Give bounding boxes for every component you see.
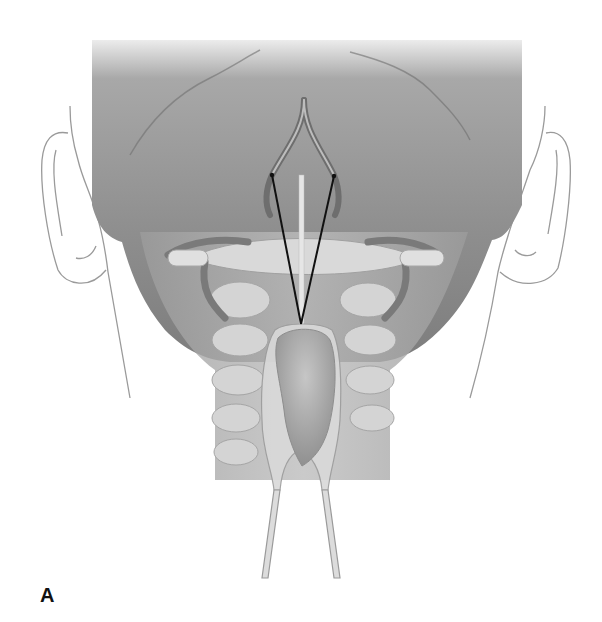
panel-label: A (40, 584, 54, 607)
midline-probe (299, 175, 304, 325)
retractor-handles (262, 490, 340, 578)
anatomical-illustration (0, 0, 602, 622)
